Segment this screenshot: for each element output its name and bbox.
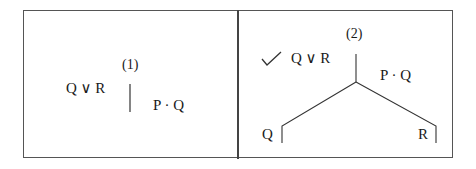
tree-lines (0, 0, 476, 169)
tree-left-branch (282, 82, 356, 143)
tree-right-branch (356, 82, 436, 143)
